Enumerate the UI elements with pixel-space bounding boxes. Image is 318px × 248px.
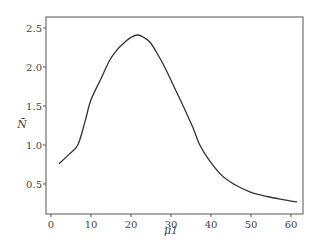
y-axis-ticks: 0.51.01.52.02.5 xyxy=(26,23,46,190)
y-tick-label: 0.5 xyxy=(26,179,42,190)
y-tick-label: 2.0 xyxy=(26,62,42,73)
data-line xyxy=(59,35,297,202)
x-axis-label: μ1 xyxy=(164,224,178,237)
x-tick-label: 60 xyxy=(285,219,298,230)
x-tick-label: 0 xyxy=(48,219,54,230)
x-tick-label: 10 xyxy=(85,219,98,230)
line-chart: 0102030405060 0.51.01.52.02.5 μ1 N̄ xyxy=(0,0,318,248)
x-tick-label: 20 xyxy=(125,219,138,230)
x-tick-label: 40 xyxy=(205,219,218,230)
y-tick-label: 2.5 xyxy=(26,23,42,34)
y-tick-label: 1.0 xyxy=(26,140,42,151)
y-tick-label: 1.5 xyxy=(26,101,42,112)
y-axis-label: N̄ xyxy=(16,118,27,131)
x-tick-label: 50 xyxy=(245,219,258,230)
plot-frame xyxy=(46,17,303,214)
